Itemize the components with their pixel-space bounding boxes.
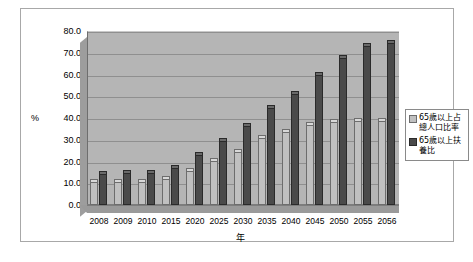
- bar-top-face: [219, 138, 227, 141]
- x-axis-tick-label: 2056: [374, 216, 400, 226]
- bar-series1[interactable]: [378, 121, 386, 205]
- bar-face: [387, 43, 395, 205]
- bar-group: [327, 31, 351, 205]
- bar-face: [315, 75, 323, 205]
- bar-series1[interactable]: [330, 122, 338, 205]
- x-axis-tick-label: 2015: [158, 216, 184, 226]
- bar-series1[interactable]: [138, 182, 146, 205]
- bar-face: [339, 58, 347, 205]
- bar-top-face: [330, 119, 338, 122]
- x-axis-ticks: 2008200920102015202020252030203520402045…: [87, 216, 399, 228]
- legend-label-series1: 65歲以上占總人口比率: [419, 113, 466, 133]
- bar-series2[interactable]: [243, 126, 251, 205]
- bar-series1[interactable]: [354, 121, 362, 205]
- bar-series2[interactable]: [147, 173, 155, 205]
- x-axis-tick-label: 2055: [350, 216, 376, 226]
- plot-left-3d-edge: [80, 37, 87, 217]
- chart-legend: 65歲以上占總人口比率 65歲以上扶養比: [405, 109, 469, 161]
- bar-series1[interactable]: [258, 138, 266, 205]
- bar-top-face: [291, 91, 299, 94]
- bar-top-face: [171, 165, 179, 168]
- chart-screenshot: 80.070.060.050.040.030.020.010.00.0 % 20…: [0, 0, 473, 262]
- bar-top-face: [195, 152, 203, 155]
- y-axis-tick-label: 60.0: [35, 71, 81, 80]
- bar-series2[interactable]: [387, 43, 395, 205]
- bar-face: [354, 121, 362, 205]
- bar-top-face: [162, 176, 170, 179]
- bar-face: [195, 155, 203, 205]
- bar-series1[interactable]: [210, 161, 218, 205]
- bar-group: [87, 31, 111, 205]
- bar-groups: [87, 31, 399, 205]
- bar-series2[interactable]: [363, 46, 371, 205]
- x-axis-tick-label: 2025: [206, 216, 232, 226]
- y-axis-tick-label: 10.0: [35, 179, 81, 188]
- bar-face: [234, 152, 242, 205]
- y-axis-tick-label: 50.0: [35, 92, 81, 101]
- bar-series2[interactable]: [291, 94, 299, 205]
- bar-face: [90, 182, 98, 205]
- bar-face: [162, 179, 170, 205]
- bar-top-face: [210, 158, 218, 161]
- bar-series1[interactable]: [234, 152, 242, 205]
- bar-series2[interactable]: [315, 75, 323, 205]
- x-axis-tick-label: 2030: [230, 216, 256, 226]
- bar-top-face: [147, 170, 155, 173]
- bar-top-face: [306, 122, 314, 125]
- bar-series2[interactable]: [123, 173, 131, 205]
- bar-series2[interactable]: [195, 155, 203, 205]
- bar-group: [255, 31, 279, 205]
- bar-top-face: [258, 135, 266, 138]
- bar-series1[interactable]: [282, 132, 290, 205]
- x-axis-tick-label: 2050: [326, 216, 352, 226]
- bar-series1[interactable]: [306, 125, 314, 205]
- bar-face: [138, 182, 146, 205]
- bar-group: [375, 31, 399, 205]
- bar-face: [243, 126, 251, 205]
- bar-top-face: [387, 40, 395, 43]
- legend-item-series1[interactable]: 65歲以上占總人口比率: [409, 113, 466, 133]
- bar-face: [114, 182, 122, 205]
- bar-series1[interactable]: [90, 182, 98, 205]
- bar-top-face: [267, 105, 275, 108]
- legend-item-series2[interactable]: 65歲以上扶養比: [409, 136, 466, 156]
- bar-series1[interactable]: [114, 182, 122, 205]
- bar-series2[interactable]: [267, 108, 275, 205]
- bar-top-face: [315, 72, 323, 75]
- bar-face: [171, 168, 179, 205]
- bar-group: [303, 31, 327, 205]
- bar-series2[interactable]: [99, 174, 107, 205]
- bar-group: [183, 31, 207, 205]
- bar-group: [231, 31, 255, 205]
- x-axis-tick-label: 2020: [182, 216, 208, 226]
- bar-series2[interactable]: [171, 168, 179, 205]
- bar-top-face: [378, 118, 386, 121]
- bar-face: [147, 173, 155, 205]
- chart-frame: 80.070.060.050.040.030.020.010.00.0 % 20…: [20, 8, 454, 242]
- x-axis-tick-label: 2008: [86, 216, 112, 226]
- y-axis-tick-label: 30.0: [35, 136, 81, 145]
- x-axis-tick-label: 2010: [134, 216, 160, 226]
- bar-face: [123, 173, 131, 205]
- bar-top-face: [234, 149, 242, 152]
- bar-group: [135, 31, 159, 205]
- bar-top-face: [363, 43, 371, 46]
- x-axis-title: 年: [236, 231, 245, 244]
- bar-top-face: [243, 123, 251, 126]
- bar-group: [207, 31, 231, 205]
- bar-top-face: [123, 170, 131, 173]
- bar-series1[interactable]: [162, 179, 170, 205]
- legend-swatch-icon-series1: [409, 115, 417, 123]
- bar-top-face: [90, 179, 98, 182]
- legend-swatch-icon-series2: [409, 138, 417, 146]
- bar-top-face: [114, 179, 122, 182]
- bar-series2[interactable]: [219, 141, 227, 205]
- bar-series2[interactable]: [339, 58, 347, 205]
- bar-face: [330, 122, 338, 205]
- bar-face: [219, 141, 227, 205]
- y-axis-tick-label: 80.0: [35, 27, 81, 36]
- bar-face: [378, 121, 386, 205]
- legend-label-series2: 65歲以上扶養比: [419, 136, 466, 156]
- bar-face: [210, 161, 218, 205]
- bar-series1[interactable]: [186, 171, 194, 205]
